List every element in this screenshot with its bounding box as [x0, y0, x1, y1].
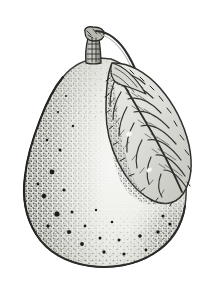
pear-illustration	[0, 0, 209, 283]
stem-knob	[85, 27, 104, 41]
pear-engraving-svg	[0, 0, 209, 283]
stem-shaft	[86, 38, 101, 64]
